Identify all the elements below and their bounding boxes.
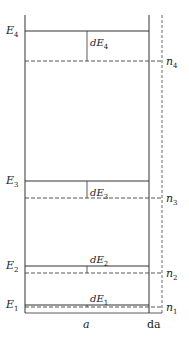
energy-level-diagram: E4n4dE4E3n3dE3E2n2dE2E1n1dE1 a da xyxy=(0,0,189,338)
n-label: n2 xyxy=(166,267,178,282)
n-label: n3 xyxy=(166,192,178,207)
dwidth-label: da xyxy=(147,318,161,331)
n-label: n1 xyxy=(166,301,178,316)
delta-e-label: dE4 xyxy=(90,37,109,51)
energy-label: E2 xyxy=(5,259,19,274)
energy-label: E4 xyxy=(5,24,19,39)
delta-e-label: dE3 xyxy=(90,187,108,201)
energy-label: E3 xyxy=(5,174,19,189)
energy-label: E1 xyxy=(5,298,19,313)
n-label: n4 xyxy=(166,55,178,70)
width-label: a xyxy=(83,318,90,331)
